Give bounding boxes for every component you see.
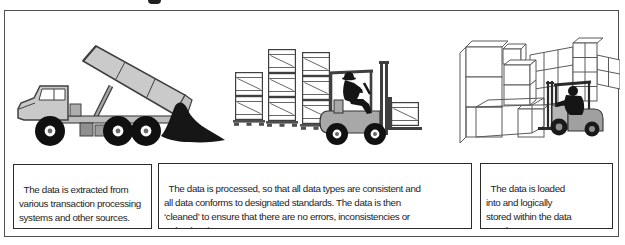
caption-box-load: The data is loaded into and logically st…: [480, 163, 613, 229]
forklift-crates-illustration: [230, 27, 426, 153]
caption-box-transform: The data is processed, so that all data …: [158, 163, 472, 229]
caption-box-extract: The data is extracted from various trans…: [13, 164, 152, 229]
carried-crate: [392, 103, 419, 126]
driver-silhouette: [342, 72, 372, 114]
warehouse-forklift-illustration: [440, 27, 620, 155]
caption-text-extract: The data is extracted from various trans…: [19, 184, 141, 223]
caption-text-load: The data is loaded into and logically st…: [486, 183, 571, 229]
cropped-text-remnant: [148, 0, 161, 4]
crate-stacks: [233, 50, 332, 130]
dump-truck-illustration: [12, 32, 230, 154]
caption-text-transform: The data is processed, so that all data …: [164, 183, 421, 229]
